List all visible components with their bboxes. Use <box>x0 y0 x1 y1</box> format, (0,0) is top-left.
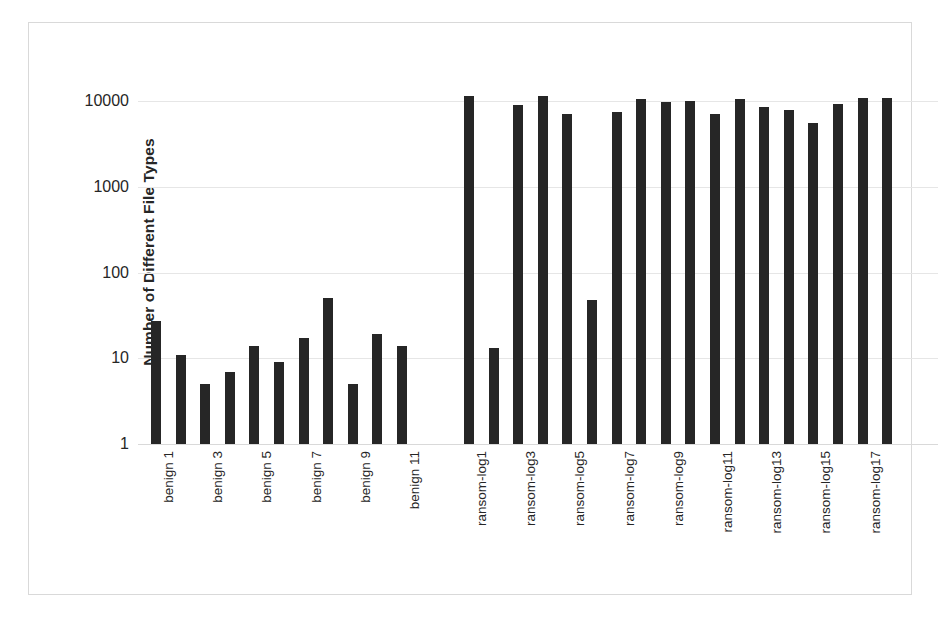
x-axis-baseline <box>138 444 938 445</box>
bar-benign-5 <box>249 346 259 444</box>
x-axis-tick-label: ransom-log15 <box>818 451 833 534</box>
x-axis-tick-label: benign 3 <box>210 451 225 503</box>
bar-benign-8 <box>323 298 333 444</box>
x-axis-tick-label: ransom-log1 <box>474 451 489 526</box>
bar-ransom-log4 <box>538 96 548 444</box>
bar-ransom-log8 <box>636 99 646 444</box>
x-axis-tick-label: benign 5 <box>259 451 274 503</box>
bar-benign-2 <box>176 355 186 444</box>
y-axis-tick-label: 10 <box>111 349 129 367</box>
bar-ransom-log9 <box>661 102 671 444</box>
chart-figure: Number of Different File Types 100001000… <box>28 22 912 595</box>
y-axis-tick-label: 10000 <box>85 92 130 110</box>
bar-benign-6 <box>274 362 284 444</box>
bar-ransom-log17 <box>858 98 868 444</box>
x-axis-tick-label: benign 7 <box>309 451 324 503</box>
bar-benign-7 <box>299 338 309 444</box>
y-axis-tick-label: 1 <box>120 435 129 453</box>
bar-ransom-log3 <box>513 105 523 444</box>
bar-benign-9 <box>348 384 358 444</box>
bar-ransom-log16 <box>833 104 843 444</box>
bar-ransom-log18 <box>882 98 892 444</box>
plot-area: 100001000100101benign 1benign 3benign 5b… <box>138 101 938 444</box>
y-axis-tick-label: 100 <box>102 264 129 282</box>
x-axis-tick-label: ransom-log7 <box>622 451 637 526</box>
bar-ransom-log13 <box>759 107 769 444</box>
bar-ransom-log1 <box>464 96 474 444</box>
bar-ransom-log2 <box>489 348 499 444</box>
x-axis-tick-label: benign 11 <box>407 451 422 509</box>
bar-ransom-log15 <box>808 123 818 444</box>
bar-ransom-log11 <box>710 114 720 444</box>
x-axis-tick-label: benign 9 <box>358 451 373 503</box>
bar-ransom-log14 <box>784 110 794 444</box>
x-axis-tick-label: benign 1 <box>161 451 176 503</box>
x-axis-tick-label: ransom-log9 <box>671 451 686 526</box>
x-axis-tick-label: ransom-log17 <box>868 451 883 534</box>
bar-benign-10 <box>372 334 382 444</box>
bar-benign-4 <box>225 372 235 444</box>
x-axis-tick-label: ransom-log11 <box>720 451 735 533</box>
x-axis-tick-label: ransom-log13 <box>769 451 784 534</box>
bar-ransom-log5 <box>562 114 572 444</box>
bar-ransom-log6 <box>587 300 597 444</box>
bar-ransom-log7 <box>612 112 622 444</box>
bar-ransom-log10 <box>685 101 695 444</box>
bar-benign-11 <box>397 346 407 444</box>
x-axis-tick-label: ransom-log3 <box>523 451 538 526</box>
bar-benign-1 <box>151 321 161 444</box>
x-axis-tick-label: ransom-log5 <box>572 451 587 526</box>
bar-benign-3 <box>200 384 210 444</box>
bar-ransom-log12 <box>735 99 745 444</box>
y-axis-tick-label: 1000 <box>93 178 129 196</box>
